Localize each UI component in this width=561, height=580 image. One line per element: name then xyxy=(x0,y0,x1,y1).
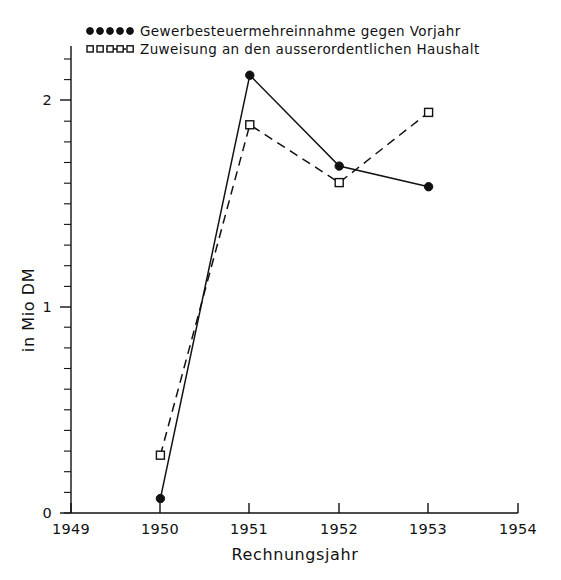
chart-container: Gewerbesteuermehreinnahme gegen Vorjahr … xyxy=(0,0,561,580)
data-point xyxy=(424,183,432,191)
series-dashed-markers xyxy=(156,108,432,459)
y-tick-label-1: 1 xyxy=(42,299,52,315)
series-dashed-line xyxy=(160,112,428,455)
data-point xyxy=(156,494,164,502)
x-tick-label-1952: 1952 xyxy=(320,521,358,537)
x-tick-label-1950: 1950 xyxy=(141,521,179,537)
y-axis-minor-ticks xyxy=(64,59,71,513)
open-square-row-icon xyxy=(87,46,133,52)
legend: Gewerbesteuermehreinnahme gegen Vorjahr … xyxy=(87,23,480,57)
data-point xyxy=(335,179,343,187)
y-tick-label-0: 0 xyxy=(42,505,52,521)
y-tick-label-2: 2 xyxy=(42,92,52,108)
plot-area xyxy=(156,71,433,503)
x-axis-tick-labels: 1949 1950 1951 1952 1953 1954 xyxy=(52,521,537,537)
legend-entry-0: Gewerbesteuermehreinnahme gegen Vorjahr xyxy=(87,23,461,39)
series-solid-line xyxy=(160,75,428,498)
line-chart: Gewerbesteuermehreinnahme gegen Vorjahr … xyxy=(0,0,561,580)
x-tick-label-1954: 1954 xyxy=(499,521,537,537)
filled-circle-row-icon xyxy=(87,28,134,35)
x-tick-label-1953: 1953 xyxy=(409,521,447,537)
legend-label-0: Gewerbesteuermehreinnahme gegen Vorjahr xyxy=(140,23,461,39)
axis-lines xyxy=(71,46,518,513)
series-solid-markers xyxy=(156,71,433,503)
y-axis-title: in Mio DM xyxy=(19,268,38,352)
x-axis-title: Rechnungsjahr xyxy=(232,545,359,564)
data-point xyxy=(246,71,254,79)
data-point xyxy=(246,121,254,129)
data-point xyxy=(156,451,164,459)
x-axis-ticks xyxy=(71,503,518,513)
x-tick-label-1951: 1951 xyxy=(230,521,268,537)
data-point xyxy=(335,162,343,170)
data-point xyxy=(425,108,433,116)
y-axis-tick-labels: 2 1 0 xyxy=(42,92,52,521)
legend-entry-1: Zuweisung an den ausserordentlichen Haus… xyxy=(87,41,480,57)
x-tick-label-1949: 1949 xyxy=(52,521,90,537)
legend-label-1: Zuweisung an den ausserordentlichen Haus… xyxy=(140,41,480,57)
